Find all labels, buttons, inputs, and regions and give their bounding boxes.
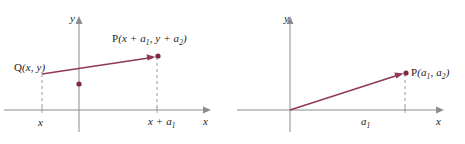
label-x-axis-right: x (436, 116, 441, 127)
point-origin-marker (76, 81, 81, 86)
vector-op (290, 72, 404, 110)
point-p-marker-right (403, 70, 408, 75)
label-point-p-right: P(a1, a2) (411, 67, 449, 78)
point-p-marker (155, 53, 160, 58)
tick-label-x-left: x (38, 117, 43, 128)
label-y-axis-left: y (70, 13, 75, 24)
tick-label-x-plus-a1-left: x + a1 (148, 116, 176, 127)
x-axis-left (4, 107, 211, 114)
vector-qp (42, 54, 156, 74)
y-axis-left (76, 16, 83, 132)
right-panel: P(a1, a2) y x a1 (233, 0, 465, 144)
label-a1-span-right: a1 (361, 116, 370, 127)
left-panel: P(x + a1, y + a2) Q(x, y) y x x x + a1 (0, 0, 233, 144)
x-axis-right (237, 107, 444, 114)
label-x-axis-left: x (203, 116, 208, 127)
label-point-q-left: Q(x, y) (14, 62, 45, 73)
vector-translation-figure: P(x + a1, y + a2) Q(x, y) y x x x + a1 (0, 0, 465, 144)
label-y-axis-right: y (284, 13, 289, 24)
label-point-p-left: P(x + a1, y + a2) (112, 33, 187, 44)
y-axis-right (287, 16, 294, 132)
